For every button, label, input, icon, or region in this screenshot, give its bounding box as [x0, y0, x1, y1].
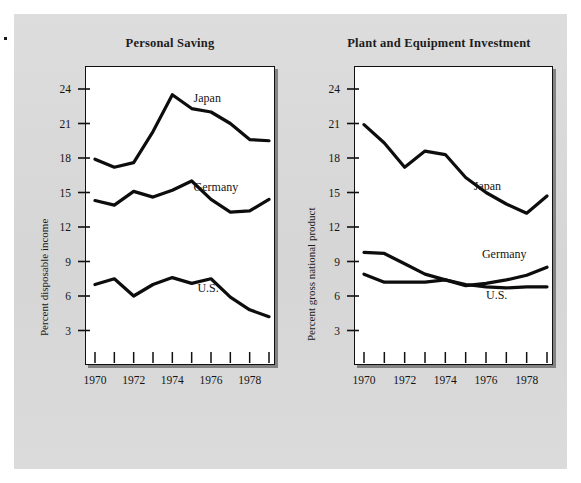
chart-title-plant-equipment-investment: Plant and Equipment Investment — [313, 36, 565, 51]
series-line-us — [95, 278, 269, 317]
series-label-japan: Japan — [474, 179, 501, 194]
x-tick-label: 1974 — [434, 374, 457, 386]
x-tick-label: 1976 — [475, 374, 498, 386]
y-tick-label: 15 — [308, 187, 340, 199]
series-label-us: U.S. — [486, 288, 507, 303]
x-tick-label: 1972 — [122, 374, 145, 386]
y-tick-label: 6 — [308, 290, 340, 302]
y-tick-label: 12 — [308, 221, 340, 233]
y-tick-label: 9 — [39, 256, 71, 268]
x-tick-label: 1970 — [353, 374, 376, 386]
y-tick-label: 18 — [39, 152, 71, 164]
page-root: Personal Saving Percent disposable incom… — [0, 0, 581, 483]
series-line-japan — [364, 125, 547, 214]
series-line-japan — [95, 95, 269, 167]
y-axis-label-personal-saving: Percent disposable income — [38, 219, 50, 336]
y-tick-label: 15 — [39, 187, 71, 199]
series-label-us: U.S. — [197, 281, 218, 296]
series-label-germany: Germany — [194, 180, 239, 195]
x-tick-label: 1974 — [161, 374, 184, 386]
y-tick-label: 24 — [308, 83, 340, 95]
y-tick-label: 24 — [39, 83, 71, 95]
plot-svg-plant-equipment-investment — [354, 66, 553, 365]
x-tick-label: 1978 — [515, 374, 538, 386]
y-tick-label: 9 — [308, 256, 340, 268]
x-tick-label: 1972 — [393, 374, 416, 386]
series-line-germany — [95, 181, 269, 212]
chart-title-personal-saving: Personal Saving — [70, 36, 270, 51]
series-label-japan: Japan — [194, 91, 221, 106]
plot-svg-personal-saving — [85, 66, 275, 365]
page-edge-artifact-dot — [4, 37, 7, 40]
x-tick-label: 1978 — [238, 374, 261, 386]
chart-panel-plant-equipment-investment: Plant and Equipment Investment Percent g… — [299, 36, 565, 376]
y-tick-label: 6 — [39, 290, 71, 302]
y-tick-label: 12 — [39, 221, 71, 233]
y-tick-label: 3 — [308, 325, 340, 337]
x-tick-label: 1976 — [200, 374, 223, 386]
y-tick-label: 18 — [308, 152, 340, 164]
plot-area-personal-saving: 369121518212419701972197419761978JapanGe… — [85, 66, 275, 365]
chart-panel-personal-saving: Personal Saving Percent disposable incom… — [30, 36, 288, 376]
y-tick-label: 3 — [39, 325, 71, 337]
y-tick-label: 21 — [308, 118, 340, 130]
plot-area-plant-equipment-investment: 369121518212419701972197419761978JapanGe… — [354, 66, 553, 365]
x-tick-label: 1970 — [84, 374, 107, 386]
y-tick-label: 21 — [39, 118, 71, 130]
series-label-germany: Germany — [482, 247, 527, 262]
